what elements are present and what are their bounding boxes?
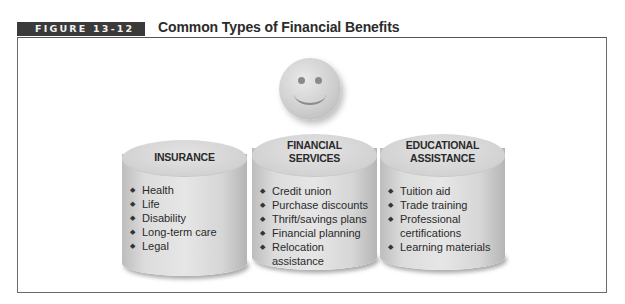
list-item: Long-term care bbox=[130, 225, 217, 239]
list-item: Thrift/savings plans bbox=[260, 212, 368, 226]
category-heading: FINANCIAL SERVICES bbox=[252, 139, 377, 165]
category-heading: INSURANCE bbox=[122, 151, 247, 164]
figure-label: FIGURE 13-12 bbox=[17, 22, 145, 36]
list-item: Disability bbox=[130, 211, 217, 225]
list-item: Legal bbox=[130, 239, 217, 253]
heading-line: FINANCIAL bbox=[252, 139, 377, 152]
list-item: Tuition aid bbox=[388, 184, 491, 198]
heading-line: SERVICES bbox=[252, 152, 377, 165]
list-item: Credit union bbox=[260, 184, 368, 198]
benefit-list: Tuition aid Trade training Professional … bbox=[388, 184, 491, 254]
smiley-face-icon bbox=[279, 58, 341, 120]
figure-title: Common Types of Financial Benefits bbox=[158, 19, 399, 35]
list-item: Relocation assistance bbox=[260, 240, 342, 268]
heading-line: ASSISTANCE bbox=[380, 152, 505, 165]
benefit-list: Health Life Disability Long-term care Le… bbox=[130, 183, 217, 253]
category-insurance: INSURANCE Health Life Disability Long-te… bbox=[122, 140, 247, 276]
list-item: Learning materials bbox=[388, 240, 491, 254]
heading-line: INSURANCE bbox=[154, 151, 215, 163]
cylinder-top: FINANCIAL SERVICES bbox=[252, 134, 377, 177]
smiley-mouth bbox=[294, 83, 326, 105]
list-item: Trade training bbox=[388, 198, 491, 212]
list-item: Life bbox=[130, 197, 217, 211]
list-item: Health bbox=[130, 183, 217, 197]
heading-line: EDUCATIONAL bbox=[380, 139, 505, 152]
list-item: Financial planning bbox=[260, 226, 368, 240]
category-financial-services: FINANCIAL SERVICES Credit union Purchase… bbox=[252, 134, 377, 270]
cylinder-top: EDUCATIONAL ASSISTANCE bbox=[380, 134, 505, 177]
cylinder-top: INSURANCE bbox=[122, 140, 247, 177]
list-item: Professional certifications bbox=[388, 212, 475, 240]
benefit-list: Credit union Purchase discounts Thrift/s… bbox=[260, 184, 368, 268]
category-heading: EDUCATIONAL ASSISTANCE bbox=[380, 139, 505, 165]
list-item: Purchase discounts bbox=[260, 198, 368, 212]
category-educational-assistance: EDUCATIONAL ASSISTANCE Tuition aid Trade… bbox=[380, 134, 505, 270]
